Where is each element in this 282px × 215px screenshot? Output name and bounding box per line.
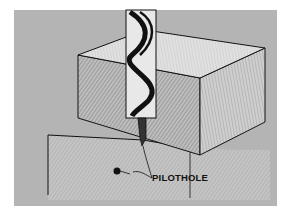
lower-board — [48, 135, 270, 200]
drill-illustration — [0, 0, 282, 215]
pilot-hole-label: PILOTHOLE — [152, 172, 208, 183]
wood-block — [78, 30, 265, 155]
pilot-hole-dot — [114, 168, 121, 175]
